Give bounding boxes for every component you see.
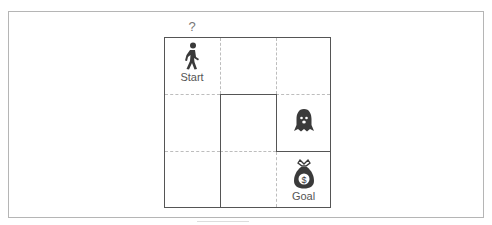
grid-line xyxy=(220,151,276,152)
svg-text:$: $ xyxy=(301,175,306,185)
question-mark: ? xyxy=(186,19,198,34)
grid-line xyxy=(220,38,221,94)
ghost-cell xyxy=(276,108,331,132)
grid-line xyxy=(165,151,220,152)
wall xyxy=(220,94,221,208)
wall xyxy=(220,94,277,95)
goal-cell: $ Goal xyxy=(276,159,331,202)
start-cell: Start xyxy=(164,42,220,83)
start-label: Start xyxy=(180,71,203,83)
wall xyxy=(276,151,331,152)
grid-line xyxy=(276,38,277,94)
grid-line xyxy=(276,94,330,95)
ghost-icon xyxy=(294,108,314,132)
money-bag-icon: $ xyxy=(293,159,315,189)
person-walking-icon xyxy=(182,42,202,70)
goal-label: Goal xyxy=(292,190,315,202)
bottom-divider xyxy=(197,221,249,225)
grid-line xyxy=(165,94,220,95)
